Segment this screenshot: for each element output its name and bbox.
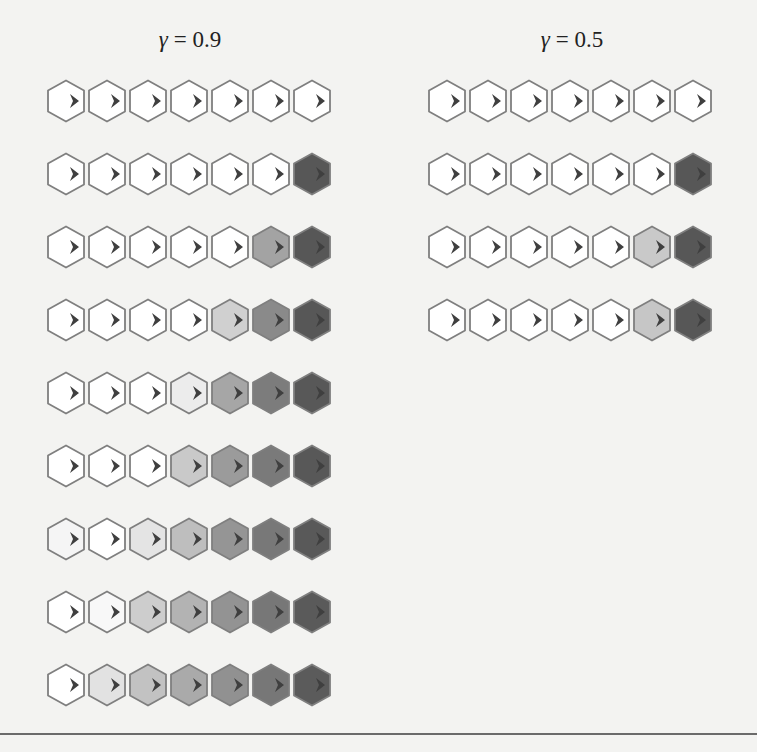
hexagon-icon <box>210 444 250 488</box>
hexagon-icon <box>46 298 86 342</box>
hexagon-icon <box>468 225 508 269</box>
hexagon-icon <box>251 152 291 196</box>
hexagon-icon <box>87 298 127 342</box>
hexagon-icon <box>468 298 508 342</box>
gamma-value: = 0.5 <box>550 27 603 52</box>
hexagon-icon <box>87 663 127 707</box>
gamma-symbol: γ <box>159 27 168 52</box>
hexagon-icon <box>169 79 209 123</box>
hexagon-icon <box>169 590 209 634</box>
hexagon-icon <box>292 79 332 123</box>
hexagon-icon <box>550 79 590 123</box>
hexagon-icon <box>251 444 291 488</box>
hexagon-icon <box>46 152 86 196</box>
hexagon-icon <box>673 298 713 342</box>
hexagon-icon <box>509 79 549 123</box>
hexagon-icon <box>292 225 332 269</box>
hexagon-icon <box>169 371 209 415</box>
hexagon-icon <box>210 517 250 561</box>
panel-title: γ = 0.9 <box>40 27 340 53</box>
hexagon-icon <box>169 225 209 269</box>
hexagon-icon <box>169 517 209 561</box>
gamma-symbol: γ <box>541 27 550 52</box>
hexagon-icon <box>292 590 332 634</box>
hexagon-icon <box>128 225 168 269</box>
hexagon-icon <box>87 517 127 561</box>
hexagon-icon <box>632 225 672 269</box>
hexagon-icon <box>427 225 467 269</box>
hexagon-icon <box>210 298 250 342</box>
hexagon-icon <box>128 371 168 415</box>
hexagon-icon <box>251 517 291 561</box>
hexagon-icon <box>509 225 549 269</box>
panel-title: γ = 0.5 <box>422 27 722 53</box>
hexagon-icon <box>210 152 250 196</box>
hexagon-icon <box>46 444 86 488</box>
hexagon-icon <box>210 225 250 269</box>
hexagon-icon <box>87 444 127 488</box>
hexagon-icon <box>632 152 672 196</box>
hexagon-icon <box>673 225 713 269</box>
hexagon-icon <box>46 371 86 415</box>
hexagon-icon <box>550 298 590 342</box>
hexagon-icon <box>210 590 250 634</box>
hexagon-icon <box>292 298 332 342</box>
hexagon-icon <box>292 371 332 415</box>
hexagon-icon <box>509 298 549 342</box>
hexagon-icon <box>292 517 332 561</box>
hexagon-icon <box>87 590 127 634</box>
hexagon-icon <box>46 517 86 561</box>
hexagon-icon <box>128 517 168 561</box>
hexagon-icon <box>673 152 713 196</box>
hexagon-icon <box>292 663 332 707</box>
hexagon-icon <box>251 663 291 707</box>
hexagon-icon <box>550 152 590 196</box>
hexagon-icon <box>210 79 250 123</box>
hexagon-icon <box>632 298 672 342</box>
hexagon-icon <box>128 152 168 196</box>
hexagon-icon <box>251 225 291 269</box>
hexagon-icon <box>632 79 672 123</box>
hexagon-icon <box>210 663 250 707</box>
hexagon-icon <box>87 79 127 123</box>
hexagon-icon <box>591 152 631 196</box>
hexagon-icon <box>87 225 127 269</box>
hexagon-icon <box>87 152 127 196</box>
hexagon-icon <box>128 590 168 634</box>
hexagon-icon <box>468 79 508 123</box>
hexagon-icon <box>87 371 127 415</box>
hexagon-icon <box>251 298 291 342</box>
hexagon-icon <box>46 663 86 707</box>
hexagon-icon <box>427 152 467 196</box>
hexagon-icon <box>169 152 209 196</box>
hexagon-icon <box>292 152 332 196</box>
hexagon-icon <box>46 590 86 634</box>
hexagon-icon <box>468 152 508 196</box>
hexagon-icon <box>128 79 168 123</box>
hexagon-icon <box>169 298 209 342</box>
hexagon-icon <box>169 663 209 707</box>
hexagon-icon <box>427 298 467 342</box>
hexagon-icon <box>128 444 168 488</box>
hexagon-icon <box>251 590 291 634</box>
hexagon-icon <box>673 79 713 123</box>
hexagon-icon <box>509 152 549 196</box>
hexagon-icon <box>591 79 631 123</box>
hexagon-icon <box>128 663 168 707</box>
hexagon-icon <box>46 79 86 123</box>
hexagon-icon <box>292 444 332 488</box>
hexagon-icon <box>169 444 209 488</box>
hexagon-icon <box>591 298 631 342</box>
hexagon-icon <box>427 79 467 123</box>
hexagon-icon <box>591 225 631 269</box>
hexagon-icon <box>46 225 86 269</box>
gamma-value: = 0.9 <box>168 27 221 52</box>
hexagon-icon <box>251 79 291 123</box>
hexagon-icon <box>251 371 291 415</box>
hexagon-icon <box>550 225 590 269</box>
hexagon-icon <box>128 298 168 342</box>
hexagon-icon <box>210 371 250 415</box>
bottom-rule-divider <box>0 733 757 735</box>
